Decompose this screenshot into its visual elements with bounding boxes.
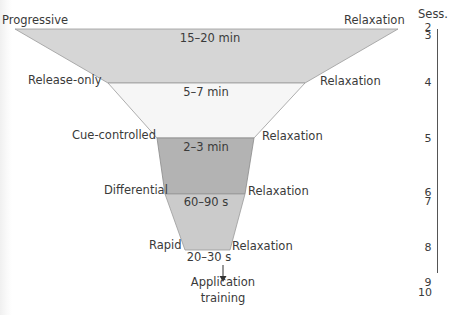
label-release-only: Release-only	[28, 75, 102, 87]
label-relaxation-3: Relaxation	[262, 131, 323, 143]
label-relaxation-2: Relaxation	[320, 76, 381, 88]
application-line2: training	[191, 290, 255, 306]
label-relaxation-1: Relaxation	[344, 15, 405, 27]
label-rapid: Rapid	[149, 240, 182, 252]
session-5: 5	[418, 133, 438, 144]
session-3: 3	[418, 30, 438, 41]
duration-cue-controlled: 2–3 min	[183, 142, 229, 154]
session-7: 7	[418, 196, 438, 207]
label-progressive: Progressive	[2, 15, 68, 27]
session-8: 8	[418, 242, 438, 253]
duration-rapid: 20–30 s	[187, 252, 232, 264]
funnel-diagram	[0, 0, 458, 315]
duration-differential: 60–90 s	[184, 197, 229, 209]
duration-progressive: 15–20 min	[180, 33, 240, 45]
application-training: Application training	[191, 274, 255, 306]
label-differential: Differential	[104, 185, 168, 197]
label-cue-controlled: Cue-controlled	[72, 130, 156, 142]
label-relaxation-4: Relaxation	[248, 186, 309, 198]
session-4: 4	[418, 77, 438, 88]
session-10: 10	[415, 287, 435, 298]
sessions-header: Sess.	[418, 9, 448, 21]
duration-release-only: 5–7 min	[183, 87, 229, 99]
label-relaxation-5: Relaxation	[232, 241, 293, 253]
sessions-axis-line	[437, 29, 438, 273]
application-line1: Application	[191, 274, 255, 290]
